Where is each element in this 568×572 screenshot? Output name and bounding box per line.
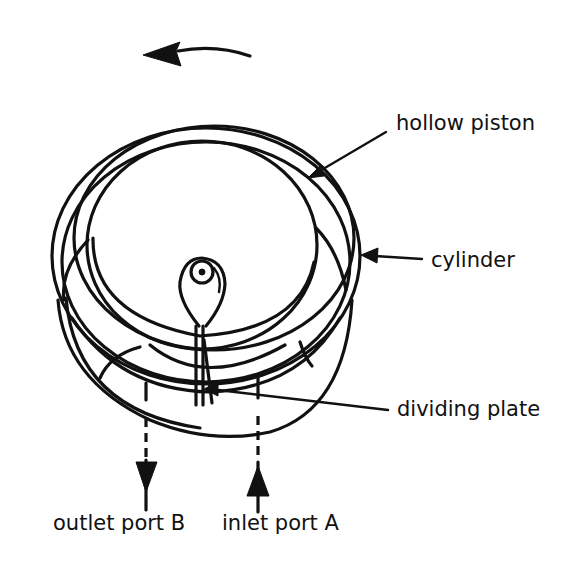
dividing-plate-leader xyxy=(204,382,388,410)
outlet-port-label: outlet port B xyxy=(53,511,185,535)
hollow-piston-label: hollow piston xyxy=(396,111,535,135)
hollow-piston-leader xyxy=(308,132,386,178)
inlet-port-label: inlet port A xyxy=(222,511,340,535)
outlet-port-b xyxy=(136,383,157,510)
rotation-arrow-icon xyxy=(143,42,250,66)
rotary-piston-diagram: hollow piston cylinder dividing plate ou… xyxy=(0,0,568,572)
inlet-port-a xyxy=(247,378,269,512)
cylinder-label: cylinder xyxy=(431,248,515,272)
cylinder-leader xyxy=(361,248,422,263)
dividing-plate-label: dividing plate xyxy=(397,397,540,421)
